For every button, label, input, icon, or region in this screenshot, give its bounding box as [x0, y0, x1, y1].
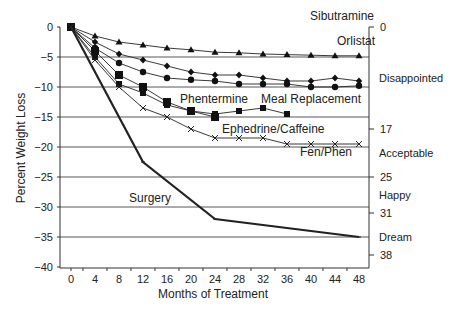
x-marker — [188, 126, 194, 132]
y-tick-label: −20 — [34, 141, 53, 153]
diamond-marker — [92, 39, 98, 46]
circle-marker — [212, 78, 218, 84]
circle-marker — [260, 81, 266, 87]
small-square-marker — [284, 111, 290, 117]
small-square-marker — [212, 111, 218, 117]
x-tick-label: 16 — [161, 273, 173, 285]
x-tick-label: 48 — [353, 273, 365, 285]
y-tick-label: −15 — [34, 111, 53, 123]
small-square-marker — [140, 90, 146, 96]
series-label: Orlistat — [337, 34, 376, 48]
x-tick-label: 32 — [257, 273, 269, 285]
diamond-marker — [212, 72, 218, 79]
square-marker — [115, 71, 123, 79]
x-axis-title: Months of Treatment — [158, 287, 269, 301]
diamond-marker — [116, 51, 122, 58]
circle-marker — [236, 81, 242, 87]
diamond-marker — [308, 78, 314, 85]
zone-label: Acceptable — [379, 147, 433, 159]
circle-marker — [332, 84, 338, 90]
diamond-marker — [140, 57, 146, 64]
weight-loss-chart: 0−5−10−15−20−25−30−35−40 048121620242832… — [0, 0, 451, 313]
right-tick-label: 38 — [380, 249, 392, 261]
x-tick-label: 24 — [209, 273, 221, 285]
diamond-marker — [188, 69, 194, 76]
series-sibutramine — [68, 24, 363, 59]
zone-label: Disappointed — [379, 72, 443, 84]
y-tick-label: −5 — [40, 51, 53, 63]
x-tick-label: 8 — [116, 273, 122, 285]
triangle-marker — [356, 52, 363, 58]
y-axis-title: Percent Weight Loss — [14, 93, 28, 204]
diamond-marker — [236, 72, 242, 79]
series-label: Surgery — [129, 191, 171, 205]
diamond-marker — [332, 75, 338, 82]
series-label: Meal Replacement — [261, 92, 362, 106]
right-tick-label: 25 — [380, 171, 392, 183]
x-tick-label: 0 — [68, 273, 74, 285]
circle-marker — [116, 60, 122, 66]
y-tick-label: −40 — [34, 261, 53, 273]
y-tick-label: −10 — [34, 81, 53, 93]
x-tick-label: 28 — [233, 273, 245, 285]
x-axis-ticks: 04812162024283236404448 — [68, 268, 365, 285]
circle-marker — [140, 69, 146, 75]
x-tick-label: 20 — [185, 273, 197, 285]
y-tick-label: −30 — [34, 201, 53, 213]
x-tick-label: 12 — [137, 273, 149, 285]
y-tick-label: 0 — [47, 21, 53, 33]
series-label: Sibutramine — [310, 9, 374, 23]
series-line — [71, 27, 287, 114]
series-label: Ephedrine/Caffeine — [222, 122, 325, 136]
small-square-marker — [164, 102, 170, 108]
zone-label: Happy — [379, 189, 411, 201]
circle-marker — [284, 81, 290, 87]
y-axis-ticks: 0−5−10−15−20−25−30−35−40 — [34, 21, 60, 273]
circle-marker — [188, 77, 194, 83]
diamond-marker — [260, 75, 266, 82]
small-square-marker — [188, 108, 194, 114]
right-tick-label: 17 — [380, 123, 392, 135]
right-tick-label: 31 — [380, 207, 392, 219]
x-marker — [140, 105, 146, 111]
y-tick-label: −35 — [34, 231, 53, 243]
diamond-marker — [164, 63, 170, 70]
x-tick-label: 36 — [281, 273, 293, 285]
circle-marker — [164, 75, 170, 81]
right-axis-ticks: 017253138 — [369, 21, 392, 261]
small-square-marker — [236, 108, 242, 114]
y-tick-label: −25 — [34, 171, 53, 183]
x-tick-label: 44 — [329, 273, 341, 285]
x-tick-label: 4 — [92, 273, 98, 285]
zone-label: Dream — [379, 231, 412, 243]
circle-marker — [356, 83, 362, 89]
series-label: Fen/Phen — [300, 145, 352, 159]
series-label: Phentermine — [180, 92, 248, 106]
square-marker — [139, 83, 147, 91]
circle-marker — [308, 84, 314, 90]
x-tick-label: 40 — [305, 273, 317, 285]
right-tick-label: 0 — [380, 21, 386, 33]
